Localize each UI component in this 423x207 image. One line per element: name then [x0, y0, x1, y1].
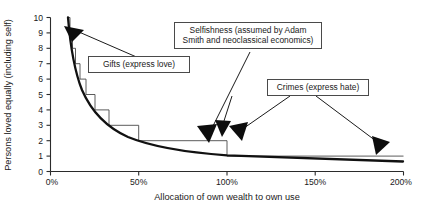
x-axis-ticks	[51, 172, 404, 176]
callout-gifts-label: Gifts (express love)	[103, 59, 175, 69]
figure-caption-partial	[4, 199, 124, 207]
y-tick-label-4: 4	[38, 105, 43, 115]
x-tick-label-100: 100%	[216, 177, 238, 187]
y-tick-label-9: 9	[38, 28, 43, 38]
callout-crimes[interactable]: Crimes (express hate)	[267, 79, 369, 96]
y-tick-label-1: 1	[38, 151, 43, 161]
figure-container: Persons loved equally (including self) 0…	[0, 0, 423, 207]
callout-crimes-label: Crimes (express hate)	[277, 82, 359, 92]
y-axis-ticks	[47, 18, 51, 172]
y-tick-label-2: 2	[38, 136, 43, 146]
annotation-crimes-leader-left	[229, 96, 290, 141]
y-tick-label-6: 6	[38, 74, 43, 84]
arrowhead-selfishness-left	[197, 124, 217, 143]
callout-gifts[interactable]: Gifts (express love)	[88, 56, 190, 73]
arrowhead-crimes-left	[229, 122, 248, 141]
x-tick-label-50: 50%	[130, 177, 148, 187]
y-tick-label-0: 0	[38, 167, 43, 177]
x-tick-label-150: 150%	[304, 177, 326, 187]
arrowhead-crimes-right	[372, 136, 390, 155]
x-axis-tick-labels: 0% 50% 100% 150% 200%	[46, 177, 413, 187]
x-axis-title: Allocation of own wealth to own use	[154, 192, 300, 202]
annotation-crimes-leader-right	[316, 96, 390, 155]
arrowhead-selfishness-center	[215, 120, 231, 137]
y-axis-title: Persons loved equally (including self)	[3, 19, 13, 171]
y-tick-label-8: 8	[38, 43, 43, 53]
x-tick-label-200: 200%	[390, 177, 412, 187]
callout-selfishness[interactable]: Selfishness (assumed by Adam Smith and n…	[174, 22, 322, 49]
y-tick-label-5: 5	[38, 90, 43, 100]
arrowhead-gifts	[64, 26, 84, 42]
x-tick-label-0: 0%	[46, 177, 59, 187]
y-tick-label-10: 10	[33, 13, 43, 23]
y-tick-label-7: 7	[38, 59, 43, 69]
callout-selfishness-line2: neoclassical economics)	[223, 35, 314, 45]
y-tick-label-3: 3	[38, 120, 43, 130]
y-axis-tick-labels: 0 1 2 3 4 5 6 7 8 9 10	[33, 13, 43, 177]
